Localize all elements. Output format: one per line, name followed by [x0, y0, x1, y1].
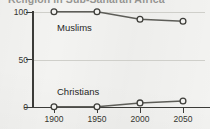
data-point: [94, 9, 100, 15]
data-point: [51, 104, 57, 110]
series-line-muslims: [54, 12, 183, 22]
series-line-christians: [54, 101, 183, 107]
chart-figure: Religion in Sub-Saharan Africa 100 50 0 …: [0, 0, 210, 129]
series-plot: [0, 0, 210, 129]
data-point: [180, 18, 186, 24]
series-label-muslims: Muslims: [57, 22, 92, 33]
data-point: [94, 104, 100, 110]
data-point: [180, 98, 186, 104]
series-markers-christians: [51, 98, 186, 110]
data-point: [137, 16, 143, 22]
data-point: [137, 100, 143, 106]
data-point: [51, 9, 57, 15]
series-group-christians: [51, 98, 186, 110]
series-label-christians: Christians: [57, 86, 99, 97]
